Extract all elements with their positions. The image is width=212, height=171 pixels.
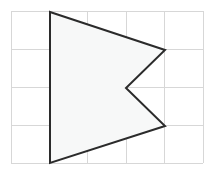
geometry-figure — [0, 0, 212, 171]
figure-container — [0, 0, 212, 171]
